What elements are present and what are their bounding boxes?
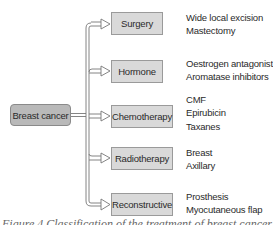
root-node-breast-cancer: Breast cancer (10, 104, 71, 126)
surgery-items: Wide local excision Mastectomy (186, 11, 263, 38)
radiotherapy-items: Breast Axillary (186, 146, 215, 173)
item-text: CMF (186, 93, 226, 106)
category-reconstructive: Reconstructive (111, 193, 173, 216)
item-text: Taxanes (186, 120, 226, 133)
item-text: Aromatase inhibitors (186, 70, 273, 83)
figure-caption: Figure 4 Classification of the treatment… (2, 217, 272, 225)
item-text: Oestrogen antagonist (186, 57, 273, 70)
item-text: Epirubicin (186, 106, 226, 119)
chemotherapy-items: CMF Epirubicin Taxanes (186, 93, 226, 133)
hormone-items: Oestrogen antagonist Aromatase inhibitor… (186, 57, 273, 84)
item-text: Breast (186, 146, 215, 159)
reconstructive-items: Prosthesis Myocutaneous flap (186, 190, 262, 217)
item-text: Wide local excision (186, 11, 263, 24)
item-text: Myocutaneous flap (186, 203, 262, 216)
item-text: Axillary (186, 159, 215, 172)
category-chemotherapy: Chemotherapy (111, 105, 173, 128)
category-surgery: Surgery (111, 12, 163, 35)
item-text: Mastectomy (186, 24, 263, 37)
item-text: Prosthesis (186, 190, 262, 203)
category-hormone: Hormone (111, 60, 163, 83)
category-radiotherapy: Radiotherapy (111, 147, 173, 170)
